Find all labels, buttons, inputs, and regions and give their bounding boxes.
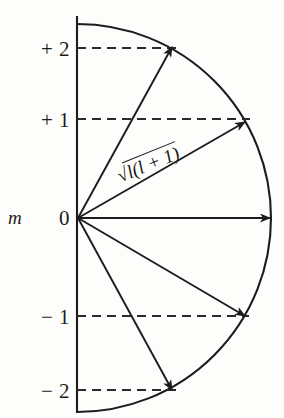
tick-label-zero: 0 <box>18 206 70 231</box>
vector-m-minus-1 <box>78 218 245 316</box>
vector-m-plus-2 <box>78 47 172 218</box>
vector-m-minus-2 <box>78 218 172 390</box>
tick-label-minus-one: − 1 <box>18 305 70 330</box>
tick-label-plus-two: + 2 <box>18 37 70 62</box>
tick-label-plus-one: + 1 <box>18 108 70 133</box>
tick-label-minus-two: − 2 <box>18 379 70 404</box>
angular-momentum-vector-diagram: m + 2 + 1 0 − 1 − 2 √l(l + 1) <box>0 0 284 418</box>
